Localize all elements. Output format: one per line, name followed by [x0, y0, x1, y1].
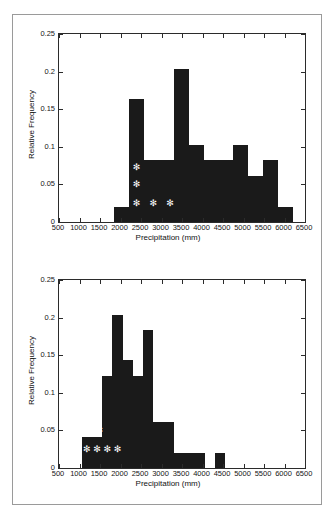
- x-axis-tick-label: 5000: [234, 223, 251, 232]
- x-axis-tick: [100, 280, 101, 284]
- x-axis-tick: [182, 464, 183, 468]
- asterisk-marker: ✻: [166, 199, 174, 208]
- histogram-bar: [114, 207, 129, 222]
- x-axis-tick: [203, 280, 204, 284]
- asterisk-marker: ✻: [133, 199, 141, 208]
- x-axis-tick-label: 1000: [70, 223, 87, 232]
- histogram-bar: [153, 422, 163, 468]
- x-axis-tick: [223, 464, 224, 468]
- histogram-bar: [233, 145, 248, 222]
- x-axis-tick-label: 6000: [275, 223, 292, 232]
- asterisk-marker: ✻: [95, 426, 103, 435]
- histogram-bar: [204, 160, 219, 222]
- x-axis-tick-label: 3000: [152, 223, 169, 232]
- x-axis-tick: [203, 34, 204, 38]
- x-axis-tick-label: 3000: [152, 469, 169, 478]
- y-axis-tick-label: 0.2: [19, 66, 55, 75]
- x-axis-tick: [100, 464, 101, 468]
- x-axis-tick: [141, 464, 142, 468]
- x-axis-tick: [244, 34, 245, 38]
- y-axis-tick: [301, 393, 305, 394]
- histogram-bar: [144, 160, 159, 222]
- x-axis-tick: [305, 464, 306, 468]
- x-axis-tick-label: 5500: [255, 469, 272, 478]
- y-axis-title: Relative Frequency: [27, 90, 36, 159]
- x-axis-tick: [244, 218, 245, 222]
- asterisk-marker: ✻: [150, 199, 158, 208]
- x-axis-tick-label: 6000: [275, 469, 292, 478]
- histogram-bar: [159, 160, 174, 222]
- top-histogram-panel: ✻✻✻✻✻ 5001000150020002500300035004000450…: [13, 15, 323, 260]
- y-axis-tick-label: 0.25: [19, 275, 55, 284]
- x-axis-tick: [305, 34, 306, 38]
- x-axis-tick: [285, 464, 286, 468]
- x-axis-tick: [162, 218, 163, 222]
- x-axis-tick: [182, 280, 183, 284]
- x-axis-tick-label: 3500: [173, 223, 190, 232]
- x-axis-tick: [244, 464, 245, 468]
- histogram-bar: [133, 376, 143, 468]
- x-axis-tick-label: 1000: [70, 469, 87, 478]
- x-axis-tick: [203, 218, 204, 222]
- bottom-histogram-panel: ✻✻✻✻✻ 5001000150020002500300035004000450…: [13, 261, 323, 506]
- x-axis-tick-label: 6500: [296, 469, 313, 478]
- histogram-bar: [143, 330, 153, 468]
- y-axis-tick: [59, 147, 63, 148]
- x-axis-tick: [100, 218, 101, 222]
- x-axis-tick: [285, 218, 286, 222]
- bottom-plot-area: ✻✻✻✻✻: [58, 279, 306, 469]
- x-axis-tick-label: 1500: [91, 469, 108, 478]
- y-axis-tick: [59, 318, 63, 319]
- x-axis-tick: [141, 218, 142, 222]
- y-axis-tick: [301, 430, 305, 431]
- histogram-bar: [218, 160, 233, 222]
- y-axis-tick: [59, 109, 63, 110]
- x-axis-title: Precipitation (mm): [13, 233, 323, 242]
- y-axis-tick-label: 0.05: [19, 179, 55, 188]
- x-axis-tick: [80, 34, 81, 38]
- y-axis-tick: [301, 147, 305, 148]
- histogram-bar: [123, 360, 133, 468]
- x-axis-tick: [305, 218, 306, 222]
- y-axis-tick-label: 0: [19, 463, 55, 472]
- x-axis-tick: [244, 280, 245, 284]
- y-axis-tick: [59, 355, 63, 356]
- histogram-bar: [184, 453, 194, 468]
- x-axis-tick: [121, 34, 122, 38]
- y-axis-tick-label: 0.15: [19, 350, 55, 359]
- histogram-bar: [263, 160, 278, 222]
- asterisk-marker: ✻: [133, 162, 141, 171]
- x-axis-tick: [100, 34, 101, 38]
- y-axis-tick-label: 0.1: [19, 387, 55, 396]
- top-bars: ✻✻✻✻✻: [59, 34, 305, 222]
- y-axis-tick: [59, 280, 63, 281]
- x-axis-tick: [285, 34, 286, 38]
- x-axis-tick: [223, 280, 224, 284]
- y-axis-tick-label: 0.05: [19, 425, 55, 434]
- y-axis-tick: [301, 72, 305, 73]
- y-axis-tick: [301, 109, 305, 110]
- x-axis-tick-label: 3500: [173, 469, 190, 478]
- y-axis-tick-label: 0.25: [19, 29, 55, 38]
- x-axis-tick-label: 2000: [111, 223, 128, 232]
- x-axis-tick: [223, 218, 224, 222]
- histogram-bar: [248, 176, 263, 222]
- y-axis-tick-label: 0.15: [19, 104, 55, 113]
- x-axis-tick: [264, 280, 265, 284]
- y-axis-tick: [301, 34, 305, 35]
- top-plot-area: ✻✻✻✻✻: [58, 33, 306, 223]
- asterisk-marker: ✻: [93, 445, 101, 454]
- x-axis-tick: [285, 280, 286, 284]
- x-axis-tick: [162, 34, 163, 38]
- x-axis-tick: [305, 280, 306, 284]
- y-axis-tick: [301, 280, 305, 281]
- x-axis-tick-label: 5500: [255, 223, 272, 232]
- x-axis-tick: [162, 464, 163, 468]
- x-axis-tick: [162, 280, 163, 284]
- x-axis-tick: [264, 218, 265, 222]
- x-axis-tick: [182, 218, 183, 222]
- y-axis-tick: [301, 355, 305, 356]
- x-axis-title: Precipitation (mm): [13, 479, 323, 488]
- x-axis-tick-label: 2500: [132, 469, 149, 478]
- x-axis-tick-label: 4500: [214, 469, 231, 478]
